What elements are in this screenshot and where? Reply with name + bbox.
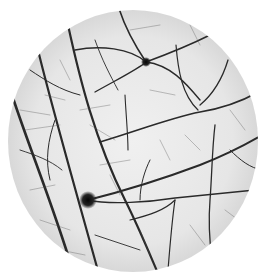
field-of-view [8, 10, 258, 272]
dark-spot-upper [141, 57, 151, 67]
micrograph-svg [0, 0, 262, 278]
dark-spot-lower [79, 191, 97, 209]
micrograph [0, 0, 262, 278]
